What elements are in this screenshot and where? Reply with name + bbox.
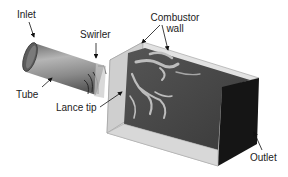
- label-inlet: Inlet: [17, 9, 36, 20]
- combustor-diagram: Inlet Swirler Combustor wall Tube Lance …: [0, 0, 288, 177]
- label-lance-tip: Lance tip: [56, 102, 97, 113]
- label-combustor-wall-line2: wall: [144, 23, 206, 34]
- label-outlet: Outlet: [250, 152, 277, 163]
- label-combustor-wall-line1: Combustor: [144, 12, 206, 23]
- label-swirler: Swirler: [80, 29, 111, 40]
- label-tube: Tube: [16, 89, 38, 100]
- label-combustor-wall: Combustor wall: [144, 12, 206, 34]
- combustor-box: [107, 42, 259, 166]
